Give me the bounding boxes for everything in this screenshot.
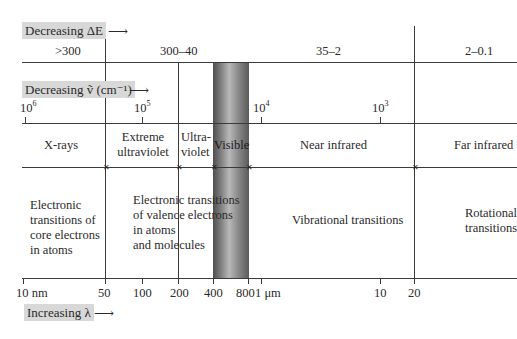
wavelength-tick — [105, 278, 106, 284]
transitions-core: Electronictransitions of core electronsi… — [30, 198, 100, 258]
wavelength-tick-label: 10 nm — [16, 286, 48, 301]
wavelength-tick — [178, 278, 179, 284]
region-uv: Ultra-violet — [181, 130, 211, 160]
transitions-vibrational: Vibrational transitions — [292, 213, 403, 228]
energy-arrow-icon: ⟶ — [108, 25, 128, 39]
energy-range: 300–40 — [160, 44, 198, 59]
wavelength-tick — [380, 278, 381, 284]
boundary-marker-icon: ✕ — [103, 165, 108, 170]
wavelength-tick-label: 50 — [98, 286, 111, 301]
boundary-marker-icon: ✕ — [176, 165, 181, 170]
wavenumber-axis-label: Decreasing ṽ (cm⁻¹) — [22, 81, 135, 98]
wavenumber-tick-label: 104 — [253, 101, 270, 116]
boundary-marker-icon: ✕ — [211, 165, 216, 170]
wavenumber-arrow-icon: ⟶ — [129, 84, 149, 98]
boundary-marker-icon: ✕ — [412, 165, 417, 170]
region-far-infrared: Far infrared — [454, 138, 513, 153]
wavelength-tick-label: 1 μm — [255, 286, 281, 301]
wavenumber-tick — [142, 117, 143, 123]
wavelength-tick-label: 20 — [408, 286, 421, 301]
boundary-marker-icon: ✕ — [246, 165, 251, 170]
transitions-valence: Electronic transitionsof valence electro… — [133, 193, 240, 253]
energy-axis-line — [22, 62, 517, 63]
region-visible: Visible — [214, 138, 249, 153]
wavelength-axis-line — [22, 278, 517, 279]
region-near-infrared: Near infrared — [300, 138, 367, 153]
wavenumber-tick-label: 103 — [372, 101, 389, 116]
wavelength-tick — [142, 278, 143, 284]
wavelength-tick — [261, 278, 262, 284]
transitions-rotational: Rotationaltransitions — [465, 206, 517, 236]
region-boundary-line — [22, 167, 517, 168]
wavelength-tick-label: 800 — [236, 286, 255, 301]
wavenumber-tick — [261, 117, 262, 123]
energy-range: 2–0.1 — [465, 44, 493, 59]
wavelength-tick — [23, 278, 24, 284]
region-x-rays: X-rays — [44, 138, 78, 153]
wavelength-tick-label: 400 — [204, 286, 223, 301]
region-extreme-uv: Extremeultraviolet — [112, 130, 174, 160]
wavenumber-tick — [25, 117, 26, 123]
wavelength-tick — [213, 278, 214, 284]
energy-range: >300 — [55, 44, 81, 59]
wavelength-tick — [414, 278, 415, 284]
wavenumber-tick — [380, 117, 381, 123]
wavelength-tick — [248, 278, 249, 284]
wavenumber-tick-label: 106 — [20, 101, 37, 116]
wavelength-axis-label: Increasing λ — [24, 304, 94, 321]
divider-50nm — [105, 26, 106, 284]
divider-20um — [414, 26, 415, 284]
wavelength-tick-label: 10 — [374, 286, 387, 301]
wavelength-arrow-icon: ⟶ — [94, 307, 114, 321]
energy-axis-label: Decreasing ΔE — [22, 22, 106, 39]
energy-range: 35–2 — [316, 44, 341, 59]
wavenumber-axis-line — [22, 123, 517, 124]
wavenumber-tick-label: 105 — [134, 101, 151, 116]
wavelength-tick-label: 200 — [170, 286, 189, 301]
wavelength-tick-label: 100 — [133, 286, 152, 301]
